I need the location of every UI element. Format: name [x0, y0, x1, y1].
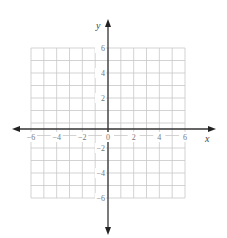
x-tick-label: −4 — [52, 133, 61, 142]
x-tick-label: −2 — [78, 133, 87, 142]
x-axis-right-arrow-icon — [208, 126, 216, 132]
x-tick-label: 6 — [183, 133, 187, 142]
x-tick-label: 4 — [157, 133, 161, 142]
y-tick-label: −4 — [96, 169, 105, 178]
coordinate-plane: −6−4−20246642−2−4−6 x y — [0, 0, 227, 238]
y-axis-label: y — [95, 20, 101, 31]
y-tick-label: −2 — [96, 144, 105, 153]
x-axis-label: x — [204, 133, 210, 144]
y-axis-up-arrow-icon — [105, 19, 111, 27]
x-tick-label: 0 — [106, 133, 110, 142]
x-axis-left-arrow-icon — [12, 126, 20, 132]
y-axis-down-arrow-icon — [105, 227, 111, 235]
y-tick-label: −6 — [96, 194, 105, 203]
x-tick-label: −6 — [27, 133, 36, 142]
y-tick-label: 6 — [101, 44, 105, 53]
y-tick-label: 2 — [101, 94, 105, 103]
y-tick-label: 4 — [101, 69, 105, 78]
x-tick-label: 2 — [132, 133, 136, 142]
